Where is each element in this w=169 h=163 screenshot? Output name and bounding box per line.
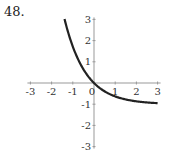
y-tick-label: -3	[81, 141, 91, 152]
y-tick-label: 3	[85, 14, 91, 25]
x-tick-label: -2	[47, 86, 57, 97]
x-tick-label: -1	[68, 86, 78, 97]
y-tick-label: -2	[81, 120, 91, 131]
plot: -3-2-10123321-1-2-3	[0, 0, 169, 163]
y-tick-label: -1	[81, 99, 91, 110]
y-tick-label: 2	[85, 35, 91, 46]
x-tick-label: -3	[26, 86, 36, 97]
x-tick-label: 0	[89, 86, 95, 97]
y-tick-label: 1	[85, 56, 91, 67]
x-tick-label: 3	[154, 86, 160, 97]
x-tick-label: 2	[133, 86, 139, 97]
